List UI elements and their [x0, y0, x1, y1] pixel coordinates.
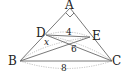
measure-x: x	[44, 38, 49, 47]
label-c: C	[112, 55, 121, 67]
right-angle-mark	[66, 13, 74, 17]
label-e: E	[92, 30, 101, 42]
label-a: A	[65, 0, 74, 11]
measure-de: 4	[66, 28, 72, 37]
measure-bc: 8	[61, 64, 67, 73]
segment-be	[20, 37, 90, 61]
label-b: B	[8, 55, 17, 67]
measure-dc: 6	[71, 45, 77, 54]
